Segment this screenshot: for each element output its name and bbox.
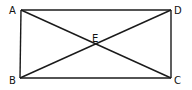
segment-ba xyxy=(20,10,21,78)
label-b: B xyxy=(9,75,16,86)
label-d: D xyxy=(174,5,182,16)
label-a: A xyxy=(9,5,16,16)
label-c: C xyxy=(174,75,181,86)
rectangle-diagram: A B C D E xyxy=(0,0,192,90)
label-e: E xyxy=(92,33,98,44)
